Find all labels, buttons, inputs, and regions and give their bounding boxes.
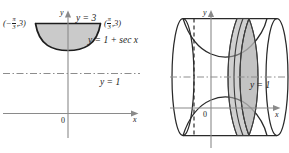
paren-close: ): [23, 19, 26, 28]
y-axis-label: y: [203, 9, 207, 17]
label-y-equals-3: y = 3: [76, 14, 96, 24]
solid-panel: y x 0 y = 1: [145, 0, 289, 153]
point-label-left-intersection: ( − π 3 , 3 ): [3, 16, 26, 30]
fraction-pi-over-3: π 3: [107, 16, 111, 30]
paren-close: ): [118, 19, 121, 28]
region-plot-panel: y x 0 y = 3 y = 1 + sec x y = 1 ( − π 3 …: [0, 0, 145, 153]
solid-of-revolution-svg: [145, 0, 289, 153]
y-axis-arrow: [208, 10, 214, 17]
fraction-denominator: 3: [12, 23, 16, 31]
label-curve-equation: y = 1 + sec x: [88, 36, 138, 46]
fraction-denominator: 3: [107, 23, 111, 31]
y-axis-label: y: [60, 9, 64, 17]
fraction-pi-over-3: π 3: [12, 16, 16, 30]
origin-label: 0: [61, 117, 65, 125]
x-axis-label: x: [133, 116, 137, 124]
figure-root: y x 0 y = 3 y = 1 + sec x y = 1 ( − π 3 …: [0, 0, 289, 153]
label-y-equals-1: y = 1: [100, 78, 120, 88]
x-axis-label: x: [275, 111, 279, 119]
y-axis-arrow: [65, 11, 71, 18]
minus-sign: −: [6, 19, 12, 28]
point-label-right-intersection: ( π 3 , 3 ): [104, 16, 121, 30]
label-y-equals-1: y = 1: [250, 81, 270, 91]
origin-label: 0: [203, 111, 207, 119]
